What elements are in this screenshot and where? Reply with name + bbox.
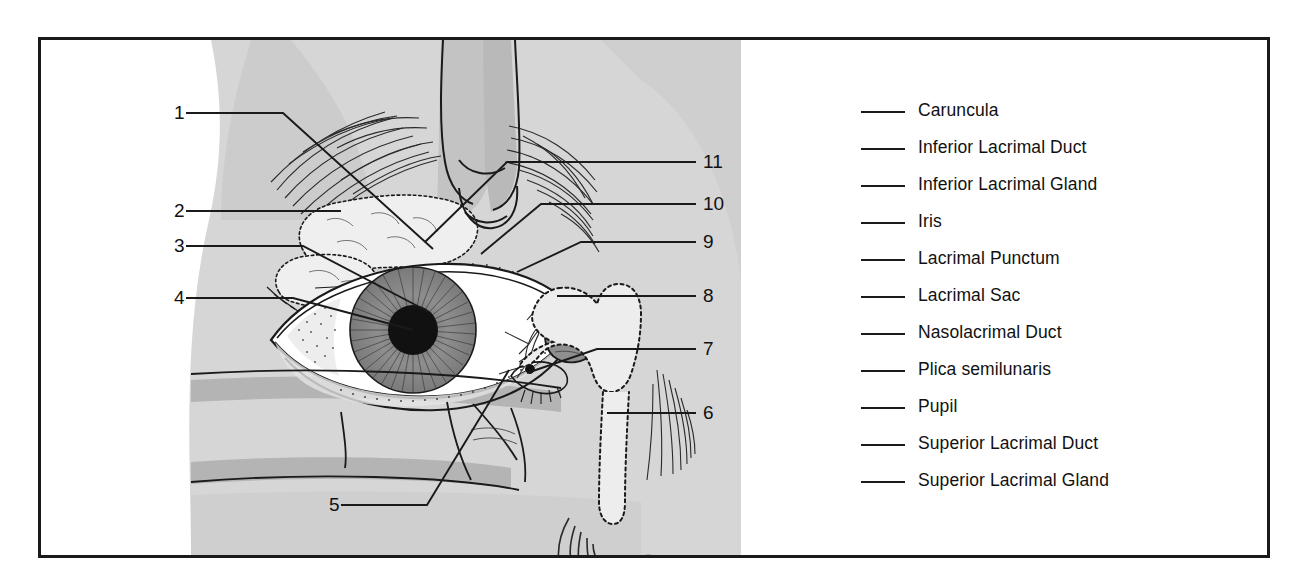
legend-row[interactable]: Superior Lacrimal Gland: [861, 470, 1251, 507]
legend-item-label: Plica semilunaris: [918, 359, 1051, 380]
legend-item-label: Lacrimal Sac: [918, 285, 1020, 306]
callout-number-6: 6: [703, 403, 714, 422]
callout-number-5: 5: [329, 495, 340, 514]
legend-row[interactable]: Lacrimal Punctum: [861, 248, 1251, 285]
callout-number-3: 3: [174, 236, 185, 255]
legend-row[interactable]: Inferior Lacrimal Duct: [861, 137, 1251, 174]
legend-item-label: Lacrimal Punctum: [918, 248, 1060, 269]
legend-answer-list: Caruncula Inferior Lacrimal Duct Inferio…: [861, 100, 1251, 507]
answer-blank[interactable]: [861, 148, 905, 150]
answer-blank[interactable]: [861, 444, 905, 446]
legend-row[interactable]: Inferior Lacrimal Gland: [861, 174, 1251, 211]
legend-row[interactable]: Nasolacrimal Duct: [861, 322, 1251, 359]
legend-row[interactable]: Caruncula: [861, 100, 1251, 137]
callout-number-9: 9: [703, 232, 714, 251]
legend-item-label: Nasolacrimal Duct: [918, 322, 1062, 343]
diagram-frame: 1 2 3 4 5 6 7 8 9 10 11 Caruncula Inferi…: [38, 37, 1270, 558]
legend-item-label: Inferior Lacrimal Gland: [918, 174, 1097, 195]
legend-item-label: Superior Lacrimal Duct: [918, 433, 1098, 454]
legend-row[interactable]: Iris: [861, 211, 1251, 248]
legend-row[interactable]: Plica semilunaris: [861, 359, 1251, 396]
answer-blank[interactable]: [861, 222, 905, 224]
answer-blank[interactable]: [861, 333, 905, 335]
callout-number-7: 7: [703, 339, 714, 358]
callout-number-1: 1: [174, 103, 185, 122]
worksheet-page: 1 2 3 4 5 6 7 8 9 10 11 Caruncula Inferi…: [0, 0, 1306, 581]
answer-blank[interactable]: [861, 111, 905, 113]
answer-blank[interactable]: [861, 296, 905, 298]
legend-item-label: Caruncula: [918, 100, 999, 121]
legend-row[interactable]: Superior Lacrimal Duct: [861, 433, 1251, 470]
callout-number-2: 2: [174, 201, 185, 220]
answer-blank[interactable]: [861, 259, 905, 261]
answer-blank[interactable]: [861, 407, 905, 409]
legend-row[interactable]: Lacrimal Sac: [861, 285, 1251, 322]
callout-number-11: 11: [703, 152, 723, 171]
callout-number-4: 4: [174, 288, 185, 307]
legend-item-label: Inferior Lacrimal Duct: [918, 137, 1087, 158]
callout-number-10: 10: [703, 194, 724, 213]
anatomy-illustration: [41, 40, 741, 555]
callout-number-8: 8: [703, 286, 714, 305]
answer-blank[interactable]: [861, 370, 905, 372]
legend-item-label: Superior Lacrimal Gland: [918, 470, 1109, 491]
legend-item-label: Pupil: [918, 396, 957, 417]
legend-item-label: Iris: [918, 211, 942, 232]
answer-blank[interactable]: [861, 481, 905, 483]
answer-blank[interactable]: [861, 185, 905, 187]
legend-row[interactable]: Pupil: [861, 396, 1251, 433]
